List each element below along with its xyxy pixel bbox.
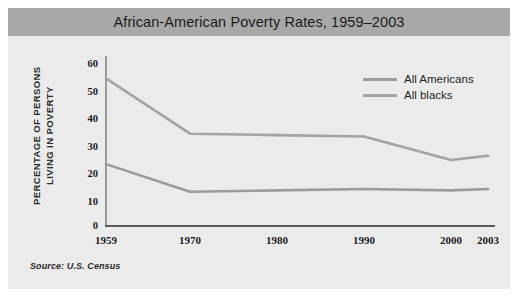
legend-label-all-blacks: All blacks (404, 89, 453, 101)
chart-card: African-American Poverty Rates, 1959–200… (8, 8, 510, 289)
x-tick-2003: 2003 (458, 234, 518, 246)
y-tick-40: 40 (68, 113, 98, 124)
legend-label-all-americans: All Americans (404, 73, 474, 85)
source-note: Source: U.S. Census (30, 261, 120, 271)
page-title: African-American Poverty Rates, 1959–200… (8, 8, 510, 36)
legend-entry-all-blacks: All blacks (363, 87, 503, 103)
legend-entry-all-americans: All Americans (363, 71, 503, 87)
x-axis-line (105, 225, 495, 227)
x-tick-1970: 1970 (160, 234, 220, 246)
x-tick-1959: 1959 (76, 234, 136, 246)
figure-canvas: African-American Poverty Rates, 1959–200… (0, 0, 518, 297)
y-tick-30: 30 (68, 141, 98, 152)
title-band: African-American Poverty Rates, 1959–200… (8, 8, 510, 36)
legend-swatch-all-blacks (363, 94, 397, 97)
chart-legend: All Americans All blacks (363, 71, 503, 103)
y-axis-label-line-2: LIVING IN POVERTY (43, 46, 56, 226)
y-tick-50: 50 (68, 86, 98, 97)
y-tick-10: 10 (68, 196, 98, 207)
x-tick-1990: 1990 (334, 234, 394, 246)
legend-swatch-all-americans (363, 78, 397, 81)
y-axis-line (105, 56, 107, 227)
x-tick-1980: 1980 (247, 234, 307, 246)
y-axis-label: PERCENTAGE OF PERSONS LIVING IN POVERTY (30, 46, 56, 226)
y-tick-20: 20 (68, 168, 98, 179)
y-axis-label-line-1: PERCENTAGE OF PERSONS (30, 46, 43, 226)
y-tick-60: 60 (68, 58, 98, 69)
y-tick-0: 0 (68, 220, 98, 231)
